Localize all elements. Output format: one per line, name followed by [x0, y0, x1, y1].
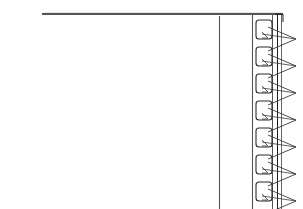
technical-drawing-svg — [0, 0, 303, 209]
top-rule-group — [42, 13, 283, 14]
figure-canvas — [0, 0, 303, 209]
slot-rect — [256, 20, 272, 39]
slot-column — [256, 20, 272, 201]
